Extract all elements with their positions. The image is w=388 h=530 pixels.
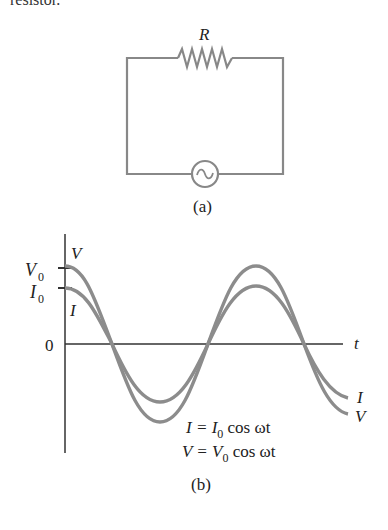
caption-b: (b) <box>191 475 211 494</box>
i0-subscript: 0 <box>38 292 44 306</box>
sine-wave-icon <box>197 170 213 179</box>
voltage-equation: V = V0 cos ωt <box>182 442 276 465</box>
current-equation: I = I0 cos ωt <box>185 418 271 441</box>
resistor-label: R <box>198 25 210 44</box>
circuit-wire <box>127 58 192 174</box>
v-end-label: V <box>355 407 368 426</box>
i-end-label: I <box>356 388 364 407</box>
i-start-label: I <box>69 301 77 320</box>
zero-label: 0 <box>45 336 54 355</box>
caption-a: (a) <box>193 197 212 216</box>
circuit-wire <box>218 58 283 174</box>
v-start-label: V <box>71 244 84 263</box>
figure: R (a) V 0 I 0 0 V I t I V I = I0 cos ωt … <box>0 0 388 530</box>
i0-label: I <box>29 282 37 302</box>
v0-label: V <box>25 260 38 280</box>
t-axis-label: t <box>354 334 360 353</box>
resistor-icon <box>178 49 232 67</box>
v0-subscript: 0 <box>38 270 44 284</box>
circuit-diagram <box>127 49 283 187</box>
